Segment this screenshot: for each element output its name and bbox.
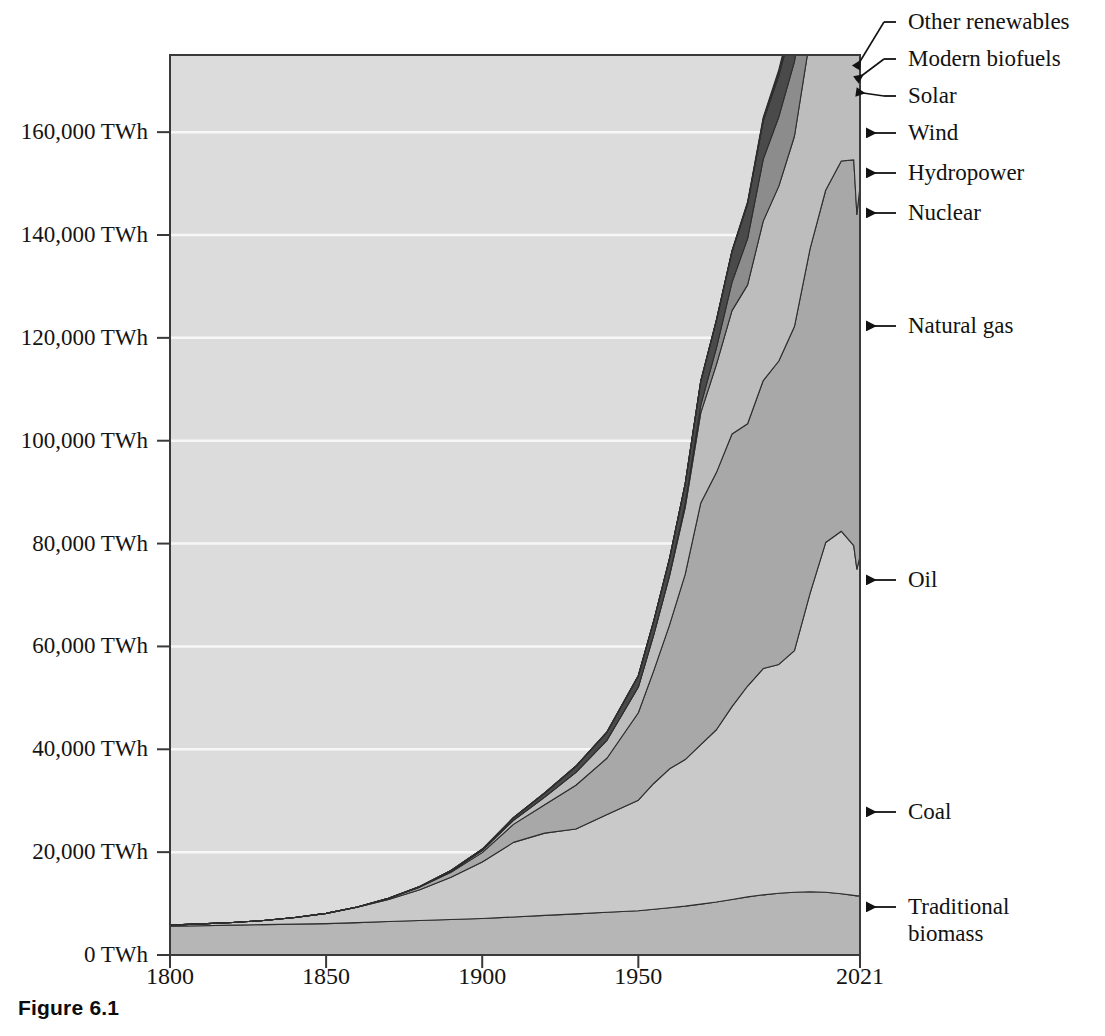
series-annotations: Other renewablesModern biofuelsSolarWind…: [0, 0, 1105, 1036]
series-label-solar: Solar: [908, 82, 957, 109]
series-label-modern-biofuels: Modern biofuels: [908, 45, 1061, 72]
series-label-traditional-biomass: Traditional biomass: [908, 893, 1009, 947]
series-label-nuclear: Nuclear: [908, 199, 981, 226]
series-label-hydropower: Hydropower: [908, 159, 1024, 186]
series-label-other-renewables: Other renewables: [908, 8, 1070, 35]
series-label-wind: Wind: [908, 119, 958, 146]
figure-container: 160,000 TWh140,000 TWh120,000 TWh100,000…: [0, 0, 1105, 1036]
figure-caption: Figure 6.1: [18, 996, 119, 1020]
series-label-coal: Coal: [908, 798, 951, 825]
series-label-oil: Oil: [908, 566, 937, 593]
series-label-natural-gas: Natural gas: [908, 312, 1013, 339]
